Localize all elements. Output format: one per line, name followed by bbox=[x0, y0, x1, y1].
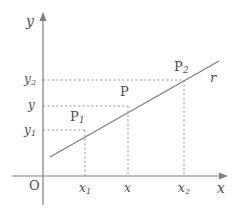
x-axis bbox=[12, 172, 228, 179]
line-r-label: r bbox=[210, 71, 216, 84]
point-label-p-text: P bbox=[120, 84, 129, 99]
y-tick-label-y2: y2 bbox=[24, 73, 36, 85]
point-label-p1: P1 bbox=[70, 110, 84, 123]
x-tick-label-x: x bbox=[124, 182, 131, 194]
up-arrow-icon bbox=[39, 12, 46, 21]
x-tick-label-x1-text: x bbox=[79, 181, 86, 195]
point-label-p2-text: P bbox=[174, 59, 183, 74]
x-tick-label-x2-text: x bbox=[178, 181, 185, 195]
x-tick-label-x2: x2 bbox=[178, 182, 190, 194]
x-axis-label: x bbox=[217, 181, 225, 195]
line-coordinates-diagram: y x O r P1 P P2 x1 x x2 y2 y y1 bbox=[0, 0, 241, 212]
y-tick-label-y1: y1 bbox=[24, 124, 36, 136]
right-arrow-icon bbox=[219, 172, 228, 179]
point-label-p2: P2 bbox=[174, 60, 188, 73]
horizontal-guide-lines bbox=[43, 80, 184, 130]
y-tick-label-y2-sub: 2 bbox=[31, 77, 36, 87]
point-label-p1-text: P bbox=[70, 109, 79, 124]
point-label-p: P bbox=[120, 85, 129, 98]
point-label-p2-sub: 2 bbox=[183, 65, 189, 75]
y-tick-label-y-text: y bbox=[28, 98, 35, 112]
y-tick-label-y1-sub: 1 bbox=[31, 128, 36, 138]
y-tick-label-y2-text: y bbox=[24, 72, 31, 86]
point-label-p1-sub: 1 bbox=[79, 115, 85, 125]
x-tick-label-x-text: x bbox=[124, 181, 131, 195]
origin-label: O bbox=[29, 179, 40, 192]
x-tick-label-x2-sub: 2 bbox=[185, 186, 190, 196]
y-axis-label: y bbox=[26, 14, 34, 28]
y-tick-label-y: y bbox=[28, 99, 35, 111]
x-tick-label-x1-sub: 1 bbox=[86, 186, 91, 196]
x-tick-label-x1: x1 bbox=[79, 182, 91, 194]
y-tick-label-y1-text: y bbox=[24, 123, 31, 137]
